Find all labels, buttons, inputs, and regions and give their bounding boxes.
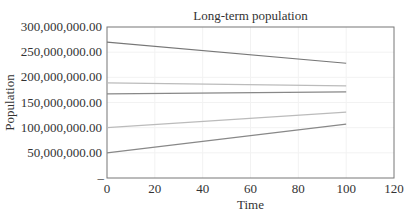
- y-tick-label: 100,000,000.00: [21, 120, 102, 135]
- x-tick-label: 40: [196, 181, 209, 196]
- x-tick-label: 20: [148, 181, 161, 196]
- data-line-series-1: [107, 42, 346, 63]
- line-chart: Long-term population–50,000,000.00100,00…: [0, 0, 414, 215]
- y-tick-label: 300,000,000.00: [21, 19, 102, 34]
- x-tick-label: 120: [384, 181, 404, 196]
- data-line-series-5: [107, 124, 346, 153]
- y-tick-label: 250,000,000.00: [21, 44, 102, 59]
- x-axis-label: Time: [237, 197, 264, 212]
- x-tick-label: 0: [104, 181, 111, 196]
- x-tick-label: 80: [292, 181, 305, 196]
- data-line-series-3: [107, 92, 346, 94]
- y-tick-label: 150,000,000.00: [21, 95, 102, 110]
- chart-title: Long-term population: [193, 8, 308, 23]
- x-tick-label: 60: [244, 181, 257, 196]
- x-tick-label: 100: [336, 181, 356, 196]
- y-tick-label: 50,000,000.00: [27, 145, 102, 160]
- data-line-series-2: [107, 83, 346, 86]
- y-axis-label: Population: [2, 74, 17, 131]
- chart-canvas: Long-term population–50,000,000.00100,00…: [0, 0, 414, 215]
- data-line-series-4: [107, 112, 346, 128]
- y-tick-label: 200,000,000.00: [21, 69, 102, 84]
